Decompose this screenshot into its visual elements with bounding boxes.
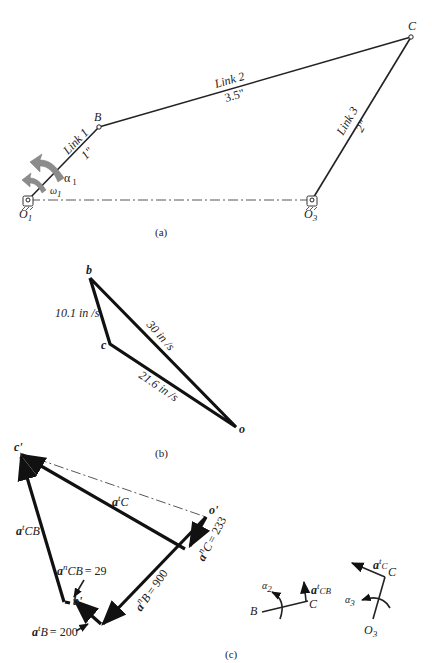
leader-at-b: [76, 624, 88, 631]
velocity-triangle: [90, 278, 236, 427]
inset-at-cb-arrow: [304, 582, 306, 601]
inset3-label-at-c: atC: [373, 556, 389, 572]
figure-b-velocity-polygon: b c o 10.1 in /s 30 in /s 21.6 in /s (b): [55, 263, 245, 460]
inset2-label-b: B: [250, 604, 258, 618]
label-an-cb: anCB= 29: [57, 562, 107, 578]
label-omega1: ω1: [50, 185, 62, 199]
label-at-c: atC: [112, 493, 130, 509]
inset-link-3: C O3 α3 atC: [345, 556, 397, 639]
figure-c-acceleration-polygon: c' o' b' atC atCB anCB= 29 anC= 233 anB=…: [14, 440, 238, 661]
inset-link-2: B C α2 atCB: [250, 580, 332, 619]
label-b-prime: b': [73, 594, 83, 608]
inset2-label-c: C: [309, 597, 318, 611]
caption-c: (c): [225, 648, 238, 661]
vector-at-c: [22, 455, 185, 549]
label-c-point: c: [101, 338, 107, 352]
inset3-label-c: C: [388, 565, 397, 579]
caption-b: (b): [155, 447, 168, 460]
label-alpha1: α1: [64, 171, 77, 187]
figure-a-linkage: O1 B C O3 Link 1 1" Link 2 3.5" Link 3 2…: [19, 19, 417, 239]
vcb-label: 10.1 in /s: [55, 306, 100, 320]
label-c: C: [408, 19, 417, 33]
inset2-label-at-cb: atCB: [311, 581, 332, 597]
fourbar-linkage-figure: O1 B C O3 Link 1 1" Link 2 3.5" Link 3 2…: [0, 0, 432, 663]
label-at-b: atB= 200: [32, 623, 78, 639]
vector-an-cb: [65, 602, 70, 603]
inset2-label-alpha2: α2: [262, 580, 272, 594]
label-an-c: anC= 233: [193, 513, 230, 563]
omega1-rotation-arrow-icon: [22, 173, 46, 193]
alpha2-rotation-arrow-icon: [272, 592, 282, 619]
joint-c-icon: [409, 35, 413, 39]
caption-a: (a): [155, 226, 168, 239]
inset3-label-o3: O3: [364, 623, 378, 639]
label-o3: O3: [304, 207, 318, 223]
label-b: B: [94, 110, 102, 124]
link-2-length: 3.5": [223, 86, 246, 105]
joint-b-icon: [97, 125, 101, 129]
inset3-label-alpha3: α3: [345, 594, 355, 608]
label-b-point: b: [86, 263, 92, 277]
label-at-cb: atCB: [16, 522, 41, 538]
inset-link-2-bar: [262, 601, 308, 612]
label-c-prime: c': [14, 440, 23, 454]
label-o-point: o: [239, 422, 245, 436]
